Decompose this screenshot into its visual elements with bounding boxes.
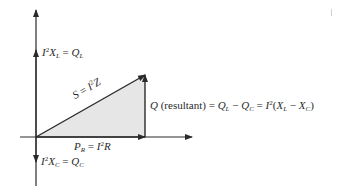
r-text: (resultant) = (158, 99, 218, 111)
r-minus: − (229, 99, 241, 111)
ql-label: I2XL = QL (42, 47, 83, 60)
r-minus2: − (287, 99, 299, 111)
ql-eq: = (60, 46, 72, 58)
power-triangle-diagram: I2XL = QL S = I2Z Q (resultant) = QL − Q… (0, 0, 352, 196)
p-eq: = (85, 140, 97, 152)
r-close: ) (310, 99, 314, 111)
ql-qsub: L (79, 52, 83, 60)
qc-x: X (48, 155, 55, 167)
pr-label: PR = I2R (74, 141, 111, 154)
p-p: P (74, 140, 81, 152)
r-qc: Q (241, 99, 249, 111)
qc-eq: = (60, 155, 72, 167)
ql-x: X (49, 46, 56, 58)
qc-qsub: C (79, 161, 84, 169)
r-ql: Q (218, 99, 226, 111)
resultant-label: Q (resultant) = QL − QC = I2(XL − XC) (150, 100, 314, 113)
page-mark (331, 9, 332, 16)
r-eq: = (254, 99, 266, 111)
r-q: Q (150, 99, 158, 111)
qc-label: I2XC = QC (41, 156, 84, 169)
p-r: R (104, 140, 111, 152)
